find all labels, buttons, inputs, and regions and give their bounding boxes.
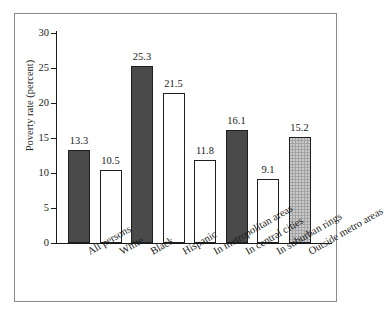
bar-value-label: 11.8: [189, 146, 221, 157]
bar-value-label: 16.1: [221, 116, 253, 127]
bar-value-label: 9.1: [252, 165, 284, 176]
bar-value-label: 21.5: [158, 79, 190, 90]
bar: [226, 130, 248, 243]
y-tick-mark: [51, 243, 56, 244]
y-axis-title: Poverty rate (percent): [24, 26, 35, 186]
bar-value-label: 15.2: [284, 123, 316, 134]
y-tick-label: 0: [27, 238, 49, 249]
bar-value-label: 25.3: [126, 52, 158, 63]
bar: [68, 150, 90, 243]
bar: [131, 66, 153, 243]
y-tick-label: 5: [27, 203, 49, 214]
bar-value-label: 13.3: [63, 136, 95, 147]
bar-value-label: 10.5: [95, 156, 127, 167]
bar: [163, 93, 185, 244]
